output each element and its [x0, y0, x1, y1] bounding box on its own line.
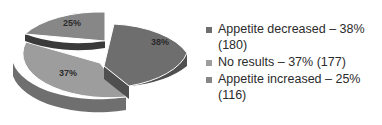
- pie-slice-appetite-increased[interactable]: 25%: [25, 12, 105, 50]
- pie-chart-plot-area: 37% 38% 25%: [0, 0, 200, 125]
- legend-swatch-icon: [206, 77, 212, 83]
- pie-slice-appetite-decreased-label: 38%: [151, 37, 169, 47]
- legend-item-label: Appetite decreased – 38% (180): [218, 21, 366, 53]
- legend-swatch-icon: [206, 27, 212, 33]
- legend-item-appetite-increased[interactable]: Appetite increased – 25% (116): [206, 71, 382, 103]
- pie-slice-appetite-decreased[interactable]: 38%: [104, 24, 187, 99]
- legend-swatch-icon: [206, 60, 212, 66]
- pie-slice-no-results-label: 37%: [59, 68, 77, 78]
- pie-chart-figure: 37% 38% 25% Appetite decreased – 38% (18…: [0, 0, 382, 125]
- pie-chart-legend: Appetite decreased – 38% (180) No result…: [200, 0, 382, 125]
- legend-item-no-results[interactable]: No results – 37% (177): [206, 54, 382, 70]
- pie-slice-appetite-increased-label: 25%: [63, 18, 81, 28]
- legend-item-appetite-decreased[interactable]: Appetite decreased – 38% (180): [206, 21, 382, 53]
- pie-chart-svg: 37% 38% 25%: [0, 0, 200, 125]
- legend-item-label: No results – 37% (177): [218, 54, 346, 70]
- legend-item-label: Appetite increased – 25% (116): [218, 71, 366, 103]
